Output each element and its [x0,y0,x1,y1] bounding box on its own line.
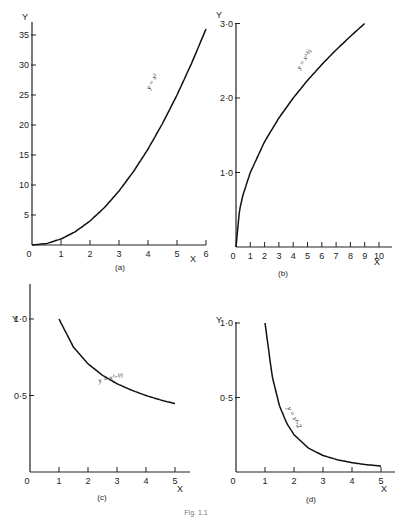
curve-label: y = x² [144,72,160,92]
x-tick-label: 4 [349,476,354,486]
x-tick-label: 1 [262,476,267,486]
x-axis-label: X [190,254,196,264]
y-tick-label: 3·0 [220,19,233,29]
x-tick-label: 1 [56,476,61,486]
x-tick-label: 7 [334,251,339,261]
y-axis-label: Y [22,12,28,22]
x-tick-label: 6 [203,249,208,259]
chart-panel-d: 0·51·0012345YX(d)y = x^-2 [216,315,395,504]
y-tick-label: 0·5 [220,393,233,403]
x-tick-label: 1 [248,251,253,261]
x-tick-label: 0 [230,251,235,261]
x-tick-label: 4 [291,251,296,261]
x-tick-label: 3 [320,476,325,486]
x-tick-label: 3 [116,249,121,259]
chart-panel-a: 51015202530350123456YX(a)y = x² [19,12,209,272]
x-tick-label: 3 [276,251,281,261]
x-tick-label: 1 [58,249,63,259]
chart-panel-c: 0·51·0012345YX(c)y = x^-½ [12,284,190,502]
y-tick-label: 25 [19,90,29,100]
x-tick-label: 2 [291,476,296,486]
y-tick-label: 30 [19,60,29,70]
y-axis-label: Y [216,10,222,20]
panel-label: (c) [97,493,107,502]
y-axis-label: Y [12,314,18,324]
y-tick-label: 15 [19,150,29,160]
x-tick-label: 8 [348,251,353,261]
x-axis-label: X [177,484,183,494]
figure-caption: Fig. 1.1 [184,509,207,517]
data-curve [32,29,206,245]
curve-label: y = x^½ [294,47,314,72]
y-tick-label: 0·5 [14,391,27,401]
chart-panel-b: 1·02·03·0012345678910YX(b)y = x^½ [216,10,392,278]
curve-label: y = x^-2 [285,404,304,430]
x-axis-label: X [381,484,387,494]
x-tick-label: 9 [362,251,367,261]
x-tick-label: 5 [174,249,179,259]
x-tick-label: 2 [262,251,267,261]
x-tick-label: 3 [114,476,119,486]
x-tick-label: 5 [305,251,310,261]
y-tick-label: 35 [19,30,29,40]
panel-label: (a) [115,263,125,272]
y-tick-label: 5 [24,210,29,220]
y-tick-label: 20 [19,120,29,130]
data-curve [265,323,381,466]
x-tick-label: 2 [87,249,92,259]
y-tick-label: 2·0 [220,93,233,103]
x-tick-label: 0 [26,249,31,259]
panel-label: (d) [306,495,316,504]
x-axis-label: X [374,257,380,267]
figure: 51015202530350123456YX(a)y = x² 1·02·03·… [0,0,404,520]
x-tick-label: 2 [85,476,90,486]
y-tick-label: 10 [19,180,29,190]
y-axis-label: Y [216,315,222,325]
x-tick-label: 4 [143,476,148,486]
panel-label: (b) [278,269,288,278]
x-tick-label: 4 [145,249,150,259]
data-curve [59,319,175,404]
x-tick-label: 0 [230,476,235,486]
y-tick-label: 1·0 [220,168,233,178]
x-tick-label: 6 [319,251,324,261]
x-tick-label: 0 [24,476,29,486]
